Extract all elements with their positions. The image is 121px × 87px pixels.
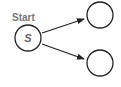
bottom-node [87,50,113,76]
edge-to-top [42,19,84,33]
start-label: Start [12,12,35,23]
top-node [87,2,113,28]
state-diagram: Start S [0,0,121,87]
edge-to-bottom [42,44,84,59]
start-node-label: S [24,32,32,44]
